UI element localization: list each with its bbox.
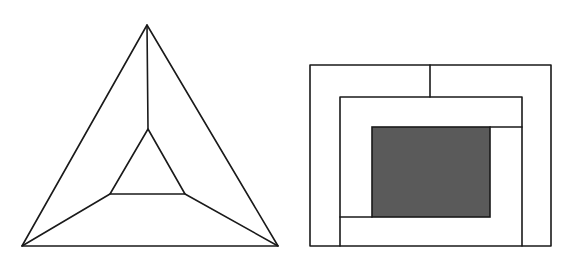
connector-top <box>147 25 148 129</box>
connector-right <box>185 194 278 246</box>
rectangle-figure <box>310 65 551 246</box>
shaded-rectangle <box>372 127 490 217</box>
triangle-figure <box>22 25 278 246</box>
outer-triangle <box>22 25 278 246</box>
diagram-canvas <box>0 0 571 257</box>
connector-left <box>22 194 110 246</box>
inner-triangle <box>110 129 185 194</box>
